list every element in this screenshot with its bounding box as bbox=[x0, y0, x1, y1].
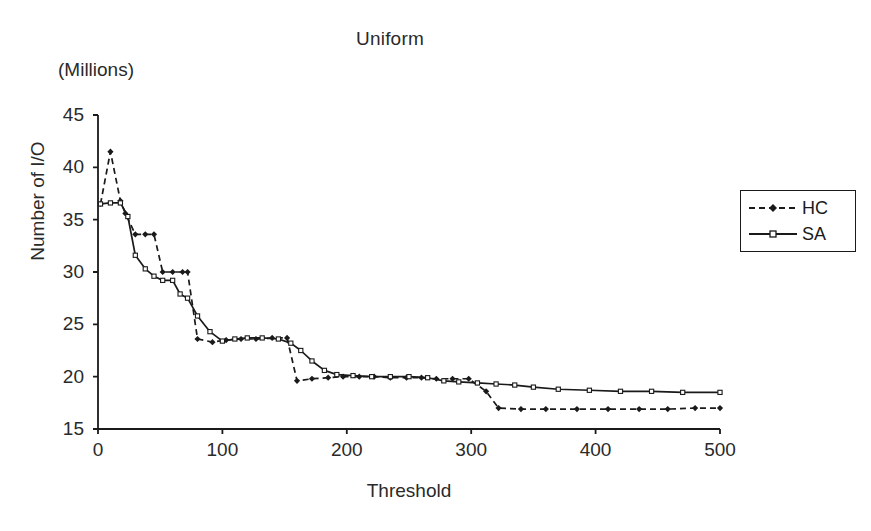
data-point-hc bbox=[107, 149, 113, 155]
data-point-hc bbox=[518, 406, 524, 412]
data-point-sa bbox=[681, 390, 685, 394]
data-point-sa bbox=[426, 376, 430, 380]
data-point-hc bbox=[170, 269, 176, 275]
data-point-sa bbox=[494, 382, 498, 386]
data-point-sa bbox=[335, 372, 339, 376]
data-point-sa bbox=[126, 214, 130, 218]
series-hc bbox=[97, 149, 723, 413]
data-point-sa bbox=[195, 314, 199, 318]
data-point-sa bbox=[442, 379, 446, 383]
legend-entry-sa: SA bbox=[741, 222, 857, 246]
data-point-sa bbox=[161, 278, 165, 282]
legend-swatch-sa bbox=[747, 224, 799, 244]
data-point-hc bbox=[209, 339, 215, 345]
data-point-sa bbox=[407, 375, 411, 379]
data-point-sa bbox=[185, 296, 189, 300]
data-point-sa bbox=[587, 388, 591, 392]
data-point-hc bbox=[636, 406, 642, 412]
data-point-sa bbox=[289, 341, 293, 345]
data-point-sa bbox=[98, 202, 102, 206]
data-point-sa bbox=[718, 390, 722, 394]
data-point-sa bbox=[171, 278, 175, 282]
data-series-layer bbox=[97, 149, 723, 413]
data-point-sa bbox=[475, 381, 479, 385]
data-point-sa bbox=[108, 201, 112, 205]
data-point-hc bbox=[717, 405, 723, 411]
legend-label-sa: SA bbox=[802, 224, 826, 245]
data-point-hc bbox=[284, 335, 290, 341]
series-sa bbox=[98, 201, 722, 395]
data-point-sa bbox=[143, 267, 147, 271]
data-point-hc bbox=[160, 269, 166, 275]
data-point-hc bbox=[142, 231, 148, 237]
data-point-sa bbox=[556, 387, 560, 391]
data-point-sa bbox=[310, 359, 314, 363]
data-point-hc bbox=[309, 376, 315, 382]
legend-swatch-hc bbox=[747, 198, 799, 218]
data-point-hc bbox=[132, 231, 138, 237]
data-point-hc bbox=[253, 336, 259, 342]
data-point-sa bbox=[220, 339, 224, 343]
data-point-hc bbox=[665, 406, 671, 412]
data-point-sa bbox=[178, 292, 182, 296]
data-point-hc bbox=[466, 376, 472, 382]
plot-area bbox=[0, 0, 871, 531]
data-point-sa bbox=[388, 375, 392, 379]
data-point-sa bbox=[618, 389, 622, 393]
data-point-sa bbox=[118, 201, 122, 205]
data-point-sa bbox=[513, 383, 517, 387]
data-point-sa bbox=[531, 385, 535, 389]
data-point-sa bbox=[322, 368, 326, 372]
data-point-sa bbox=[370, 375, 374, 379]
data-point-hc bbox=[325, 375, 331, 381]
data-point-sa bbox=[457, 380, 461, 384]
data-point-sa bbox=[299, 348, 303, 352]
data-point-hc bbox=[692, 405, 698, 411]
legend-label-hc: HC bbox=[802, 198, 828, 219]
data-point-sa bbox=[245, 336, 249, 340]
data-point-hc bbox=[151, 231, 157, 237]
data-point-hc bbox=[574, 406, 580, 412]
data-point-sa bbox=[152, 274, 156, 278]
data-point-hc bbox=[605, 406, 611, 412]
data-point-hc bbox=[294, 378, 300, 384]
data-point-sa bbox=[208, 330, 212, 334]
data-point-sa bbox=[260, 336, 264, 340]
chart-figure: Uniform (Millions) Number of I/O Thresho… bbox=[0, 0, 871, 531]
data-point-sa bbox=[351, 374, 355, 378]
data-point-sa bbox=[649, 389, 653, 393]
data-point-sa bbox=[133, 253, 137, 257]
data-point-sa bbox=[276, 337, 280, 341]
data-point-hc bbox=[184, 269, 190, 275]
legend: HC SA bbox=[740, 190, 856, 252]
data-point-sa bbox=[233, 337, 237, 341]
data-point-hc bbox=[194, 336, 200, 342]
data-point-hc bbox=[543, 406, 549, 412]
legend-entry-hc: HC bbox=[741, 196, 857, 220]
